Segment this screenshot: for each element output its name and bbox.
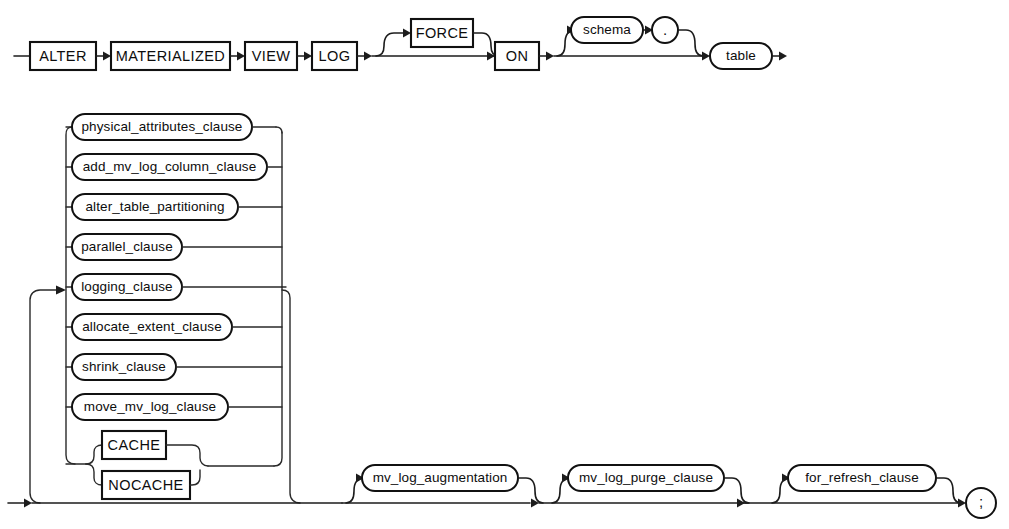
clause-add-mv-log-column-clause-label: add_mv_log_column_clause (83, 159, 257, 174)
rail-branch-in-mv-log-augmentation (346, 478, 364, 503)
rail-branch-in-mv-log-purge-clause (552, 478, 570, 503)
clause-parallel-clause-label: parallel_clause (81, 239, 173, 254)
terminator-semicolon-label: ; (979, 493, 983, 510)
arrow-row1-end-icon (779, 52, 787, 61)
clause-mv-log-purge-clause-label: mv_log_purge_clause (579, 470, 713, 485)
keyword-cache-label: CACHE (108, 437, 161, 453)
railroad-diagram: ALTER MATERIALIZED VIEW LOG FORC (0, 0, 1009, 529)
row1-group: ALTER MATERIALIZED VIEW LOG FORC (14, 17, 787, 70)
identifier-schema-label: schema (583, 22, 631, 37)
arrow-to-materialized-icon (103, 52, 111, 61)
arrow-on-out-icon (546, 52, 554, 61)
rail-stack-outer-right (282, 290, 300, 503)
clause-logging-clause-label: logging_clause (81, 279, 172, 294)
syntax-diagram-canvas: ALTER MATERIALIZED VIEW LOG FORC (0, 0, 1009, 529)
punctuation-dot-label: . (663, 21, 667, 38)
clause-allocate-extent-clause-label: allocate_extent_clause (82, 319, 222, 334)
clause-shrink-clause-label: shrink_clause (82, 359, 166, 374)
keyword-on-label: ON (506, 48, 529, 64)
clause-mv-log-augmentation-label: mv_log_augmentation (373, 470, 508, 485)
clause-stack-group: physical_attributes_clause add_mv_log_co… (30, 114, 300, 503)
keyword-nocache-label: NOCACHE (108, 477, 183, 493)
arrow-to-log-icon (304, 52, 312, 61)
identifier-table-label: table (726, 48, 756, 63)
arrow-to-terminator-icon (958, 499, 966, 508)
rail-branch-in-for-refresh-clause (772, 478, 790, 503)
rail-cache-fork-down (86, 464, 102, 485)
clause-alter-table-partitioning-label: alter_table_partitioning (86, 199, 225, 214)
arrow-to-view-icon (237, 52, 245, 61)
rail-dot-merge (678, 30, 703, 56)
arrow-log-out-icon (364, 52, 372, 61)
keyword-materialized-label: MATERIALIZED (116, 48, 225, 64)
rail-branch-out-mv-log-augmentation (518, 478, 543, 503)
clause-physical-attributes-clause-label: physical_attributes_clause (82, 119, 243, 134)
arrow-to-table-icon (702, 52, 710, 61)
arrow-to-force-icon (403, 29, 411, 38)
rail-repeat-loopback (30, 290, 56, 503)
keyword-force-label: FORCE (416, 25, 469, 41)
arrow-force-merge-icon (487, 52, 495, 61)
rail-cache-merge-up (166, 445, 208, 466)
rail-branch-out-for-refresh-clause (936, 478, 961, 503)
clause-right-rail (274, 132, 282, 466)
keyword-alter-label: ALTER (39, 48, 87, 64)
clause-move-mv-log-clause-label: move_mv_log_clause (84, 399, 216, 414)
arrow-bottom-entry-icon (24, 499, 32, 508)
clause-for-refresh-clause-label: for_refresh_clause (805, 470, 919, 485)
keyword-view-label: VIEW (252, 48, 291, 64)
clause-right-rail-top-cap (276, 127, 282, 133)
keyword-log-label: LOG (319, 48, 351, 64)
arrow-loopback-icon (56, 286, 66, 295)
rail-nocache-merge-down (190, 470, 200, 485)
rail-branch-out-mv-log-purge-clause (724, 478, 749, 503)
rail-cache-fork-up (86, 445, 102, 464)
rail-force-branch-in (376, 33, 403, 56)
